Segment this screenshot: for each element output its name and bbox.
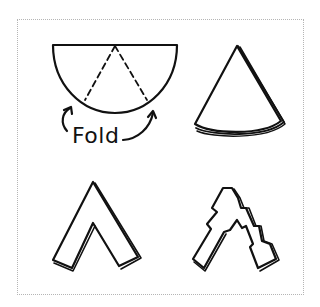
chevron-back-layer (54, 183, 141, 271)
fold-line-right (115, 46, 147, 100)
fold-diagram (0, 0, 320, 307)
cone-back-layer-2 (197, 47, 285, 136)
fold-line-left (85, 46, 115, 100)
zigzag-back-layer (194, 189, 279, 271)
semicircle-outline (53, 45, 177, 113)
zigzag-front (193, 188, 276, 268)
folded-cone-step (195, 46, 285, 136)
zigzag-step (193, 188, 279, 271)
cone-front (195, 46, 281, 132)
chevron-step (53, 182, 141, 271)
fold-arrow-left-icon (63, 108, 70, 131)
cone-back-layer (196, 46, 284, 134)
chevron-front (53, 182, 138, 268)
fold-label: Fold (72, 125, 119, 147)
